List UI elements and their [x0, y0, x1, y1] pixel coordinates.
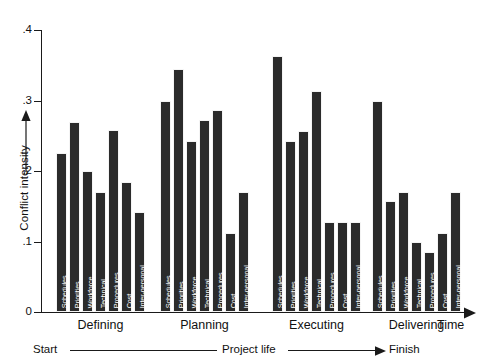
bar[interactable]: Cost [437, 233, 448, 312]
bar[interactable]: Workforce [186, 141, 197, 312]
conflict-intensity-bar-chart: Conflict intensity .4.3.2.10 SchedulesPr… [0, 0, 500, 364]
y-tick-label-0: .4 [18, 24, 32, 36]
bar[interactable]: Priorities [385, 201, 396, 312]
y-tick-2 [34, 171, 42, 172]
y-tick-1 [34, 101, 42, 102]
bar[interactable]: Schedules [372, 101, 383, 313]
bar[interactable]: Procedures [324, 222, 335, 312]
y-tick-label-1: .3 [18, 95, 32, 107]
bar[interactable]: Schedules [272, 56, 283, 312]
timeline-start-label: Start [33, 343, 57, 355]
bar[interactable]: Workforce [82, 171, 93, 312]
bar[interactable]: Procedures [424, 252, 435, 312]
y-tick-label-4: 0 [18, 306, 32, 318]
bar[interactable]: Technical [95, 192, 106, 312]
bar-group-executing: SchedulesPrioritiesWorkforceTechnicalPro… [272, 30, 363, 312]
plot-area: SchedulesPrioritiesWorkforceTechnicalPro… [42, 30, 465, 312]
y-tick-label-2: .2 [18, 165, 32, 177]
y-tick-3 [34, 242, 42, 243]
bar[interactable]: Schedules [160, 101, 171, 313]
bar[interactable]: Inter-personal [134, 212, 145, 312]
bar[interactable]: Procedures [108, 130, 119, 312]
bar[interactable]: Priorities [173, 69, 184, 312]
bar-group-delivering: SchedulesPrioritiesWorkforceTechnicalPro… [372, 30, 463, 312]
bar-group-defining: SchedulesPrioritiesWorkforceTechnicalPro… [56, 30, 147, 312]
y-tick-label-3: .1 [18, 236, 32, 248]
bar[interactable]: Cost [121, 182, 132, 312]
y-tick-4 [34, 312, 42, 313]
timeline-rule-left [70, 350, 217, 351]
bar[interactable]: Cost [337, 222, 348, 312]
phase-label-planning: Planning [160, 318, 249, 332]
bar[interactable]: Priorities [69, 122, 80, 312]
bar-group-planning: SchedulesPrioritiesWorkforceTechnicalPro… [160, 30, 251, 312]
bar[interactable]: Inter-personal [450, 192, 461, 312]
y-tick-0 [34, 30, 42, 31]
bar[interactable]: Technical [311, 91, 322, 312]
timeline-rule-right [288, 350, 376, 351]
bar[interactable]: Procedures [212, 110, 223, 312]
bar[interactable]: Inter-personal [350, 222, 361, 312]
timeline-arrow-icon [374, 345, 386, 357]
x-axis-label: Time [437, 318, 464, 332]
bar[interactable]: Technical [199, 120, 210, 312]
bar[interactable]: Schedules [56, 153, 67, 312]
y-axis-arrow-icon [19, 110, 33, 172]
timeline-finish-label: Finish [389, 343, 420, 355]
x-axis-line [41, 312, 465, 313]
timeline-middle-label: Project life [222, 343, 276, 355]
bar[interactable]: Inter-personal [238, 192, 249, 312]
bar[interactable]: Workforce [398, 192, 409, 312]
phase-label-executing: Executing [272, 318, 361, 332]
bar[interactable]: Workforce [298, 131, 309, 312]
bar[interactable]: Cost [225, 233, 236, 312]
project-life-timeline: Start Project life Finish [0, 340, 500, 362]
bar[interactable]: Priorities [285, 141, 296, 312]
bar[interactable]: Technical [411, 242, 422, 313]
phase-label-defining: Defining [56, 318, 145, 332]
